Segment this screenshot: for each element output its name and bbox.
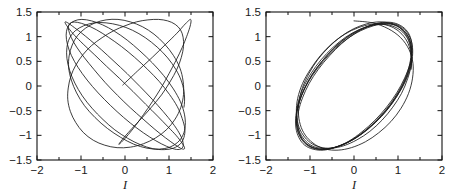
y-tick-label: −1.5 — [9, 154, 32, 166]
y-tick-label: −0.5 — [9, 105, 32, 117]
y-tick-label: 0 — [26, 80, 32, 92]
x-axis-label: I — [351, 178, 357, 192]
y-tick-label: 1.5 — [245, 6, 261, 18]
x-axis-label: I — [122, 178, 128, 192]
x-tick-label: 1 — [395, 164, 401, 176]
x-tick-label: 2 — [210, 164, 216, 176]
x-tick-label: 0 — [122, 164, 128, 176]
plot-svg-right: −2−1012−1.5−1−0.500.511.5I — [229, 0, 458, 194]
x-tick-label: −2 — [259, 164, 272, 176]
plot-svg-left: −2−1012−1.5−1−0.500.511.5I — [0, 0, 229, 194]
y-tick-label: 0.5 — [245, 55, 261, 67]
x-tick-label: −2 — [30, 164, 43, 176]
figure-container: −2−1012−1.5−1−0.500.511.5I −2−1012−1.5−1… — [0, 0, 458, 194]
y-tick-label: 0.5 — [16, 55, 32, 67]
trajectory-curve — [65, 19, 191, 149]
y-tick-label: −0.5 — [238, 105, 261, 117]
y-tick-label: −1.5 — [238, 154, 261, 166]
y-tick-label: 0 — [255, 80, 261, 92]
x-tick-label: −1 — [303, 164, 316, 176]
x-tick-label: 2 — [439, 164, 445, 176]
plot-panel-right: −2−1012−1.5−1−0.500.511.5I — [229, 0, 458, 194]
y-tick-label: −1 — [248, 129, 261, 141]
x-tick-label: −1 — [74, 164, 87, 176]
plot-panel-left: −2−1012−1.5−1−0.500.511.5I — [0, 0, 229, 194]
y-tick-label: −1 — [19, 129, 32, 141]
x-tick-label: 1 — [166, 164, 172, 176]
trajectory-curve — [296, 21, 414, 150]
y-tick-label: 1 — [255, 31, 261, 43]
y-tick-label: 1 — [26, 31, 32, 43]
x-tick-label: 0 — [351, 164, 357, 176]
y-tick-label: 1.5 — [16, 6, 32, 18]
